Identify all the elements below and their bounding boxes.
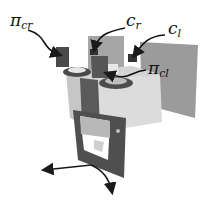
label-pi-cl: πcl xyxy=(148,60,169,79)
gripper-diagram: πcr cr cl πcl xyxy=(0,0,209,208)
pi-cr-leader xyxy=(28,30,60,55)
frame-screw xyxy=(116,129,120,133)
label-pi-cr: πcr xyxy=(10,12,33,31)
label-c-l: cl xyxy=(168,20,181,39)
label-c-r: cr xyxy=(126,12,141,31)
x-axis-arrow xyxy=(44,165,91,170)
c-l-block xyxy=(128,54,137,62)
pi-cr-block xyxy=(56,47,69,67)
center-block xyxy=(91,56,108,78)
